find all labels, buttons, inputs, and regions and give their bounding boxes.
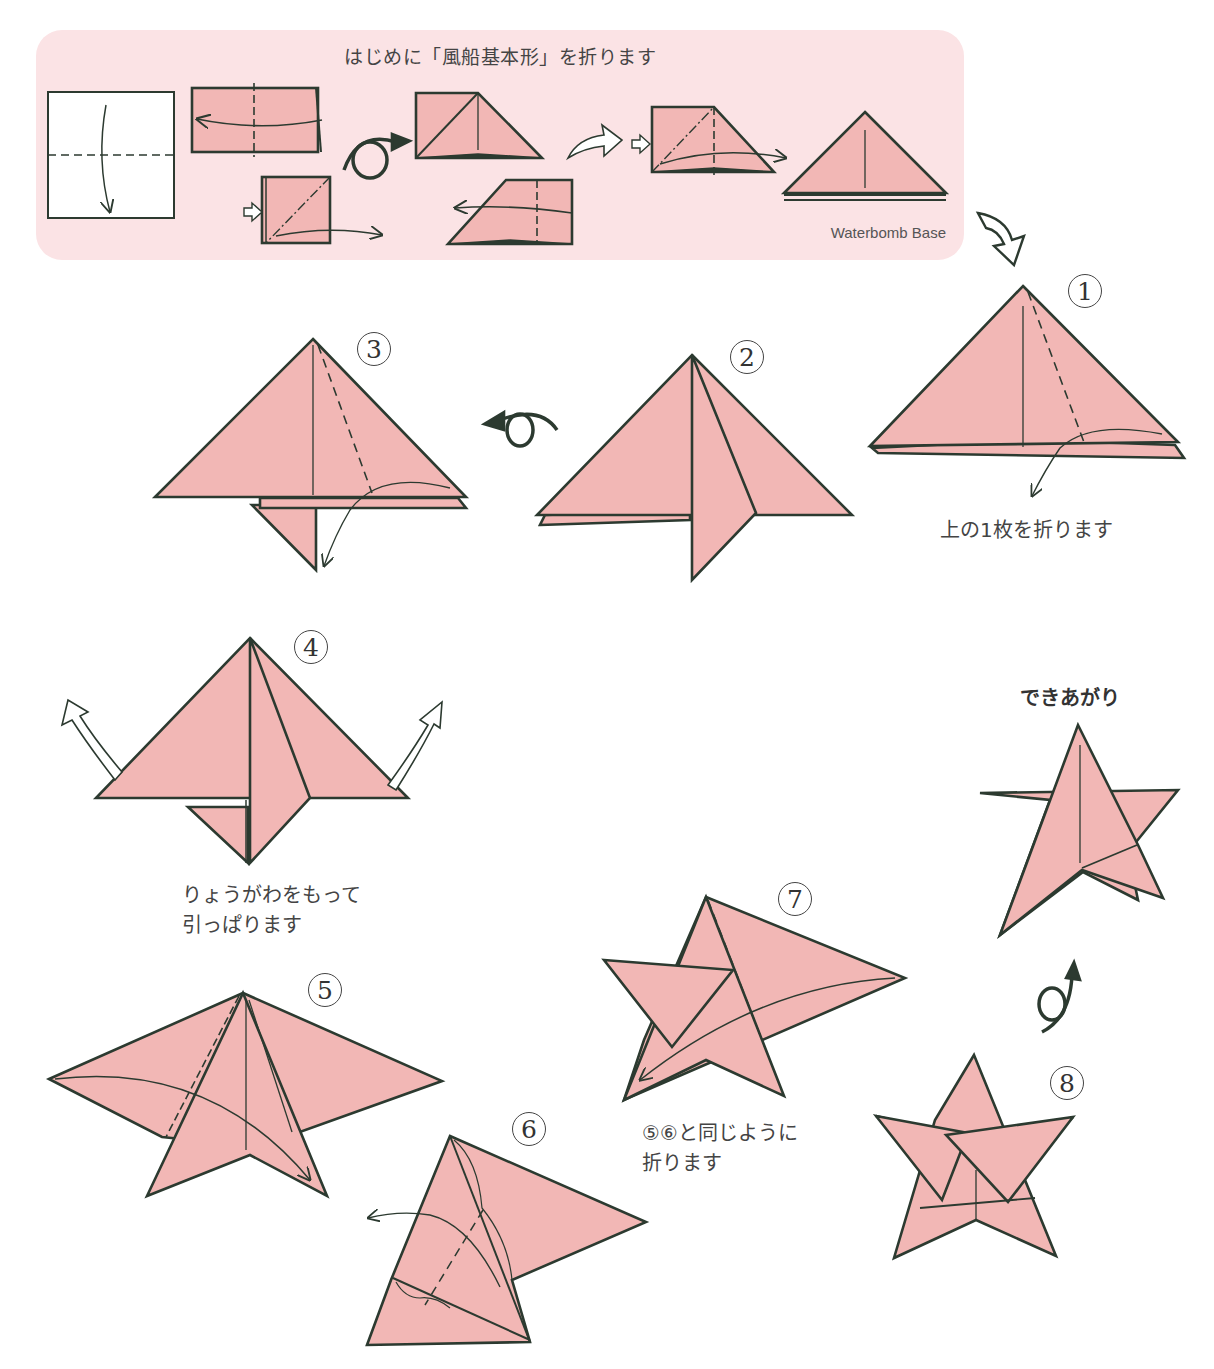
step-1-diagram: [870, 286, 1184, 496]
push-arrow-icon: [632, 135, 650, 153]
step-number-3: 3: [357, 332, 391, 366]
intro-rectangle: [192, 83, 322, 157]
push-arrow-icon: [244, 203, 262, 221]
step-6-diagram: [367, 1136, 646, 1345]
turn-over-icon: [344, 134, 410, 178]
step-number-7: 7: [778, 882, 812, 916]
intro-folding-square: [632, 107, 786, 178]
turn-over-icon: [484, 412, 557, 446]
step-1-caption: 上の1枚を折ります: [940, 515, 1113, 545]
intro-trapezoid: [448, 180, 572, 244]
intro-square: [48, 92, 174, 218]
step-number-1: 1: [1068, 274, 1102, 308]
step-5-diagram: [49, 993, 442, 1196]
intro-house: [416, 93, 542, 158]
pull-arrow-left-icon: [62, 700, 122, 780]
step-number-8: 8: [1050, 1066, 1084, 1100]
step-number-2: 2: [730, 340, 764, 374]
intro-small-square: [244, 177, 382, 243]
step-4-diagram: [96, 638, 408, 863]
step-number-6: 6: [512, 1112, 546, 1146]
final-star-diagram: [980, 725, 1178, 935]
hollow-arrow-icon: [568, 125, 622, 158]
step-3-diagram: [155, 339, 466, 570]
final-label: できあがり: [1020, 683, 1120, 713]
step-2-diagram: [537, 355, 852, 580]
rotate-icon: [1039, 962, 1080, 1032]
step-number-4: 4: [294, 630, 328, 664]
step-number-5: 5: [308, 973, 342, 1007]
hollow-arrow-icon: [978, 213, 1024, 265]
step-4-caption: りょうがわをもって 引っぱります: [182, 880, 361, 940]
step-7-caption: ⑤⑥と同じように 折ります: [642, 1118, 798, 1178]
step-7-diagram: [604, 897, 905, 1100]
step-8-diagram: [876, 1055, 1073, 1258]
intro-waterbomb-base: [784, 112, 946, 200]
pull-arrow-right-icon: [388, 702, 442, 790]
